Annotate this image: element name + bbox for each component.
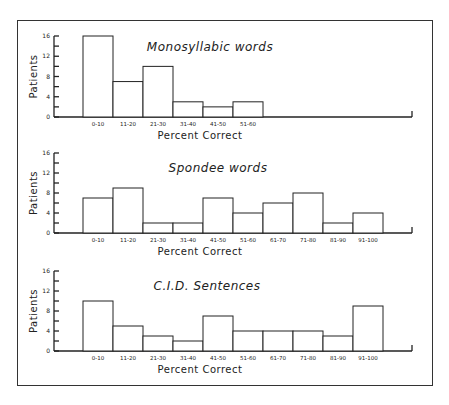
x-category-label: 71-80	[300, 355, 316, 361]
histogram-bar	[233, 213, 263, 233]
x-category-label: 41-50	[210, 355, 226, 361]
y-tick-label: 8	[46, 73, 50, 80]
x-category-label: 31-40	[180, 355, 196, 361]
histogram-bar	[113, 188, 143, 233]
histogram-bar	[263, 203, 293, 233]
x-category-label: 51-60	[240, 121, 256, 127]
x-category-label: 61-70	[270, 355, 286, 361]
x-category-label: 21-30	[150, 121, 166, 127]
x-category-label: 51-60	[240, 237, 256, 243]
x-category-label: 11-20	[120, 237, 136, 243]
histogram-bar	[143, 66, 173, 117]
histogram-bar	[113, 326, 143, 351]
chart-title: Monosyllabic words	[147, 40, 273, 54]
x-category-label: 51-60	[240, 355, 256, 361]
x-category-label: 91-100	[358, 355, 378, 361]
x-category-label: 61-70	[270, 237, 286, 243]
histogram-bar	[263, 331, 293, 351]
x-category-label: 81-90	[330, 355, 346, 361]
histogram-bar	[173, 341, 203, 351]
y-tick-label: 4	[46, 93, 50, 100]
x-category-label: 21-30	[150, 237, 166, 243]
histogram-bar	[203, 198, 233, 233]
x-category-label: 31-40	[180, 121, 196, 127]
histogram-bar	[233, 331, 263, 351]
x-category-label: 31-40	[180, 237, 196, 243]
chart-cid-sentences: 04812160-1011-2021-3031-4041-5051-6061-7…	[28, 267, 412, 375]
y-tick-label: 16	[42, 267, 50, 274]
x-category-label: 11-20	[120, 355, 136, 361]
y-tick-label: 0	[46, 347, 50, 354]
y-tick-label: 8	[46, 307, 50, 314]
x-category-label: 41-50	[210, 121, 226, 127]
x-axis-label: Percent Correct	[158, 246, 243, 257]
x-category-label: 71-80	[300, 237, 316, 243]
chart-spondee-words: 04812160-1011-2021-3031-4041-5051-6061-7…	[28, 149, 412, 257]
histogram-bar	[353, 306, 383, 351]
histogram-bar	[323, 336, 353, 351]
histogram-bar	[83, 36, 113, 117]
chart-title: Spondee words	[169, 161, 268, 175]
x-category-label: 21-30	[150, 355, 166, 361]
x-axis-label: Percent Correct	[158, 364, 243, 375]
histogram-bar	[143, 336, 173, 351]
x-category-label: 11-20	[120, 121, 136, 127]
y-tick-label: 16	[42, 32, 50, 39]
histogram-bar	[83, 198, 113, 233]
y-tick-label: 0	[46, 229, 50, 236]
histogram-bar	[353, 213, 383, 233]
x-category-label: 81-90	[330, 237, 346, 243]
y-tick-label: 4	[46, 209, 50, 216]
histogram-bar	[323, 223, 353, 233]
y-tick-label: 12	[42, 287, 50, 294]
histogram-bar	[113, 82, 143, 117]
histogram-bar	[293, 331, 323, 351]
x-category-label: 0-10	[92, 355, 105, 361]
x-axis-label: Percent Correct	[158, 130, 243, 141]
y-axis-label: Patients	[28, 289, 39, 333]
x-category-label: 91-100	[358, 237, 378, 243]
y-tick-label: 12	[42, 169, 50, 176]
histogram-bar	[293, 193, 323, 233]
x-category-label: 0-10	[92, 121, 105, 127]
y-axis-label: Patients	[28, 54, 39, 98]
y-tick-label: 16	[42, 149, 50, 156]
x-category-label: 41-50	[210, 237, 226, 243]
y-axis-label: Patients	[28, 171, 39, 215]
histogram-figure: 04812160-1011-2021-3031-4041-5051-60Perc…	[0, 0, 449, 405]
y-tick-label: 8	[46, 189, 50, 196]
histogram-bar	[203, 316, 233, 351]
chart-monosyllabic-words: 04812160-1011-2021-3031-4041-5051-60Perc…	[28, 32, 412, 141]
histogram-bar	[173, 223, 203, 233]
y-tick-label: 4	[46, 327, 50, 334]
histogram-bar	[233, 102, 263, 117]
histogram-bar	[143, 223, 173, 233]
histogram-bar	[203, 107, 233, 117]
x-category-label: 0-10	[92, 237, 105, 243]
y-tick-label: 0	[46, 113, 50, 120]
histogram-bar	[83, 301, 113, 351]
y-tick-label: 12	[42, 52, 50, 59]
histogram-bar	[173, 102, 203, 117]
chart-title: C.I.D. Sentences	[154, 279, 261, 293]
